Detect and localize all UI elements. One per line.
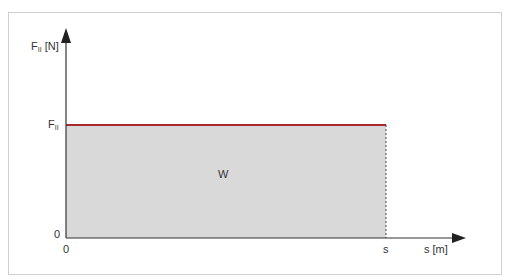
x-axis-label: s [m] [424, 243, 448, 255]
x-tick-zero: 0 [63, 243, 69, 255]
x-axis-arrow-icon [452, 233, 466, 243]
x-tick-s: s [383, 243, 389, 255]
y-tick-zero: 0 [54, 228, 60, 240]
y-tick-force: FII [48, 118, 59, 131]
y-axis-arrow-icon [61, 28, 71, 43]
area-label-work: W [218, 168, 228, 180]
work-diagram [0, 0, 512, 280]
work-area [66, 125, 386, 238]
y-axis-label: FII [N] [31, 40, 59, 53]
